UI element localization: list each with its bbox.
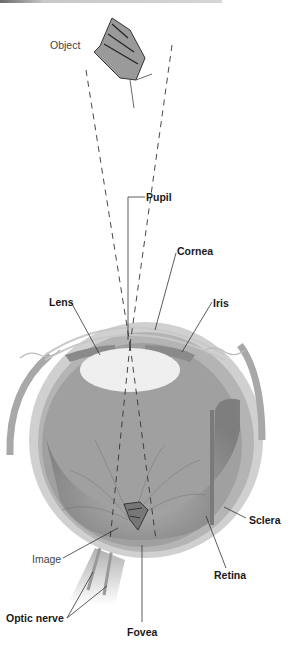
image-label: Image bbox=[32, 553, 61, 565]
lens-label: Lens bbox=[49, 296, 74, 308]
iris-label: Iris bbox=[213, 297, 229, 309]
cornea-label: Cornea bbox=[177, 245, 213, 257]
sclera-label: Sclera bbox=[249, 514, 281, 526]
optic-nerve-label: Optic nerve bbox=[6, 612, 64, 624]
retina-label: Retina bbox=[214, 569, 246, 581]
pupil-label: Pupil bbox=[146, 191, 172, 203]
lens-shape bbox=[80, 348, 180, 392]
optic-nerve-shape bbox=[70, 548, 125, 605]
fovea-label: Fovea bbox=[127, 626, 157, 638]
object-butterfly-icon bbox=[94, 18, 152, 108]
object-label: Object bbox=[50, 39, 80, 51]
